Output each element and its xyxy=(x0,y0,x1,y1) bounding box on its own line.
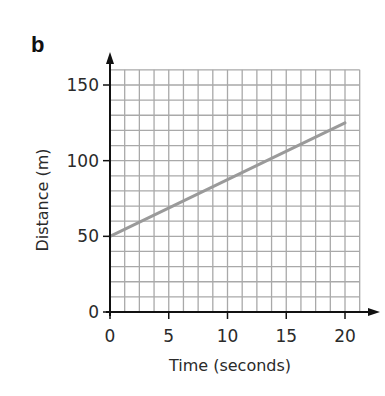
grid xyxy=(110,70,360,312)
x-tick-label: 10 xyxy=(217,326,239,346)
y-tick-label: 100 xyxy=(67,151,99,171)
x-tick-label: 20 xyxy=(334,326,356,346)
x-axis-ticks: 05101520 xyxy=(105,312,356,346)
y-axis-arrow-icon xyxy=(106,52,114,64)
x-tick-label: 0 xyxy=(105,326,116,346)
y-tick-label: 50 xyxy=(77,226,99,246)
x-tick-label: 5 xyxy=(163,326,174,346)
line-chart: 05101520 050100150 Time (seconds) Distan… xyxy=(0,0,385,396)
y-tick-label: 150 xyxy=(67,75,99,95)
y-axis-label: Distance (m) xyxy=(33,148,52,251)
y-tick-label: 0 xyxy=(88,302,99,322)
axes xyxy=(106,52,380,316)
x-axis-arrow-icon xyxy=(368,308,380,316)
x-axis-label: Time (seconds) xyxy=(168,356,291,375)
x-tick-label: 15 xyxy=(275,326,297,346)
y-axis-ticks: 050100150 xyxy=(67,75,110,322)
